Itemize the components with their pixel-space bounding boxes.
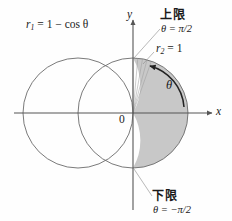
leader-line-lower-limit	[134, 169, 152, 196]
origin-label: 0	[119, 113, 125, 125]
curve-label-r1-equals: =	[37, 18, 44, 30]
lower-limit-value: θ = −π/2	[153, 204, 191, 215]
polar-figure: r1 = 1 − cos θ 上限 θ = π/2 r2 = 1 下限 θ = …	[0, 0, 232, 221]
theta-sweep-label: θ	[166, 79, 172, 92]
upper-limit-heading: 上限	[160, 8, 185, 22]
curve-label-r2-expression: 1	[177, 42, 183, 54]
curve-label-r2-subscript: 2	[160, 47, 164, 56]
upper-limit-annotation: 上限 θ = π/2	[160, 9, 192, 34]
upper-limit-value: θ = π/2	[161, 23, 192, 34]
lower-limit-heading: 下限	[152, 189, 177, 203]
x-axis-label: x	[216, 105, 221, 117]
curve-label-r2-equals: =	[167, 42, 174, 54]
curve-label-r1-subscript: 1	[30, 23, 34, 32]
curve-label-r1: r1 = 1 − cos θ	[26, 18, 88, 32]
figure-canvas	[0, 0, 232, 221]
y-axis-label: y	[127, 8, 132, 20]
curve-label-r1-expression: 1 − cos θ	[47, 18, 89, 30]
lower-limit-annotation: 下限 θ = −π/2	[152, 190, 191, 215]
curve-label-r2: r2 = 1	[156, 42, 182, 56]
